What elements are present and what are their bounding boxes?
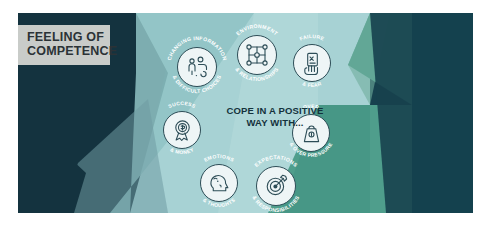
- title-line-1: FEELING OF: [27, 31, 103, 45]
- node-changing-information[interactable]: CHANGING INFORMATION & DIFFICULT CHOICES: [164, 34, 230, 100]
- node-emotions-thoughts[interactable]: EMOTIONS & THOUGHTS: [188, 152, 250, 213]
- artwork-frame: FEELING OF COMPETENCE COPE IN A POSITIVE…: [18, 13, 473, 213]
- node-failure-fear[interactable]: FAILURE & FEAR: [281, 32, 343, 94]
- target-bullseye-icon: [263, 173, 289, 199]
- hand-holding-test-icon: [300, 51, 325, 76]
- node-expectations-responsibilities[interactable]: EXPECTATIONS & RESPONSIBILITIES: [243, 153, 309, 213]
- network-nodes-icon: [244, 42, 270, 68]
- node-disc: [237, 35, 277, 75]
- node-top-label: SUCCESS: [167, 100, 197, 109]
- node-disc: [200, 164, 238, 202]
- node-disc: [293, 44, 331, 82]
- node-disc: [163, 111, 201, 149]
- bg-right-dark-panel: [412, 13, 473, 213]
- node-disc: [256, 166, 296, 206]
- person-question-icon: [184, 54, 210, 80]
- node-top-label: EMOTIONS: [203, 153, 236, 163]
- title-line-2: COMPETENCE: [27, 45, 103, 59]
- page-title: FEELING OF COMPETENCE: [18, 25, 110, 65]
- infographic-canvas: FEELING OF COMPETENCE COPE IN A POSITIVE…: [0, 0, 491, 226]
- node-top-label: FAILURE: [299, 33, 326, 42]
- head-profile-icon: [207, 171, 232, 196]
- caption-line-2: WAY WITH...: [214, 117, 336, 129]
- node-disc: [177, 47, 217, 87]
- caption-line-1: COPE IN A POSITIVE: [214, 105, 336, 117]
- award-ribbon-icon: [170, 118, 195, 143]
- center-caption: COPE IN A POSITIVE WAY WITH...: [214, 105, 336, 128]
